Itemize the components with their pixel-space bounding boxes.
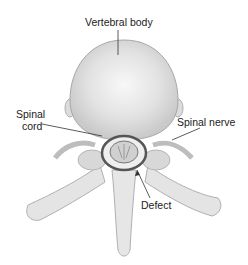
spinous-process [112, 170, 136, 256]
vertebral-body [70, 40, 178, 140]
label-spinal-cord-2: cord [22, 120, 42, 132]
left-transverse-process [27, 165, 105, 220]
label-spinal-cord-1: Spinal [16, 108, 45, 120]
label-spinal-nerve: Spinal nerve [177, 116, 235, 128]
label-vertebral-body: Vertebral body [85, 16, 153, 28]
vertebra-illustration [0, 0, 248, 265]
label-defect: Defect [141, 199, 171, 211]
